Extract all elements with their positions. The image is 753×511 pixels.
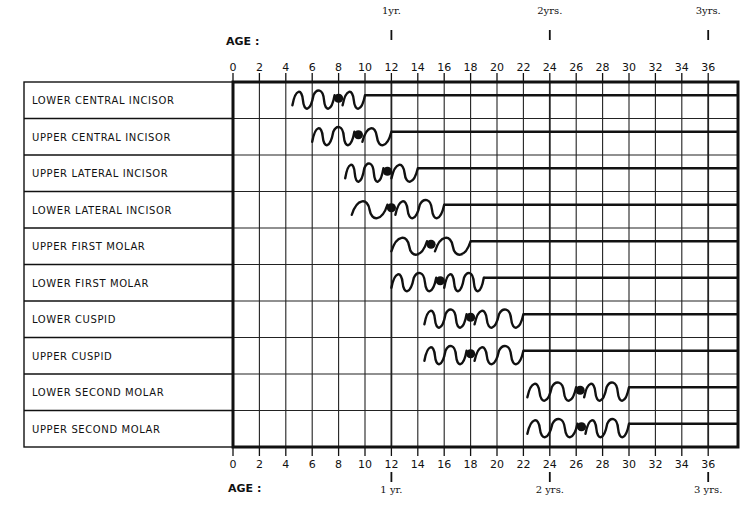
eruption-range-wave — [444, 273, 484, 291]
bottom-tick-label: 4 — [282, 458, 289, 471]
eruption-range-wave — [391, 165, 417, 182]
tooth-eruption-chart: LOWER CENTRAL INCISORUPPER CENTRAL INCIS… — [0, 0, 753, 511]
top-tick-label: 6 — [309, 61, 316, 74]
mean-eruption-dot — [387, 203, 396, 212]
eruption-range-wave — [391, 273, 436, 291]
top-tick-label: 4 — [282, 61, 289, 74]
top-tick-label: 16 — [437, 61, 451, 74]
top-tick-label: 20 — [490, 61, 504, 74]
bottom-tick-label: 28 — [596, 458, 610, 471]
eruption-range-wave — [424, 346, 466, 364]
tooth-label: LOWER FIRST MOLAR — [32, 278, 149, 289]
top-tick-label: 32 — [648, 61, 662, 74]
bottom-tick-label: 10 — [358, 458, 372, 471]
eruption-row — [292, 91, 738, 109]
bottom-tick-label: 12 — [384, 458, 398, 471]
year-label-top: 2yrs. — [537, 5, 562, 16]
eruption-row — [352, 200, 738, 218]
bottom-tick-label: 2 — [256, 458, 263, 471]
mean-eruption-dot — [383, 167, 392, 176]
eruption-row — [391, 273, 738, 291]
eruption-range-wave — [527, 383, 576, 401]
mean-eruption-dot — [466, 313, 475, 322]
eruption-range-wave — [475, 310, 524, 328]
eruption-range-wave — [362, 128, 391, 145]
bottom-tick-label: 34 — [675, 458, 689, 471]
eruption-range-wave — [395, 200, 444, 218]
mean-eruption-dot — [577, 422, 586, 431]
chart-grid — [233, 82, 738, 447]
x-axis-top: AGE : 0246810121416182022242628303234361… — [226, 5, 721, 82]
eruption-range-wave — [584, 383, 629, 401]
bottom-tick-label: 16 — [437, 458, 451, 471]
tooth-label: LOWER CUSPID — [32, 314, 116, 325]
age-label-bottom: AGE : — [228, 482, 261, 495]
bottom-tick-label: 14 — [411, 458, 425, 471]
eruption-range-wave — [343, 92, 365, 109]
top-tick-label: 34 — [675, 61, 689, 74]
eruption-row — [527, 419, 738, 437]
year-label-bottom: 3 yrs. — [694, 484, 722, 495]
eruption-row — [424, 346, 738, 364]
year-label-bottom: 2 yrs. — [536, 484, 564, 495]
eruption-row — [527, 383, 738, 401]
bottom-tick-label: 20 — [490, 458, 504, 471]
eruption-row — [424, 310, 738, 328]
mean-eruption-dot — [334, 94, 343, 103]
eruption-range-wave — [391, 238, 427, 255]
mean-eruption-dot — [466, 349, 475, 358]
bottom-tick-label: 30 — [622, 458, 636, 471]
eruption-row — [391, 238, 738, 255]
mean-eruption-dot — [576, 386, 585, 395]
bottom-tick-label: 22 — [516, 458, 530, 471]
top-tick-label: 30 — [622, 61, 636, 74]
eruption-range-wave — [352, 201, 388, 218]
bottom-tick-label: 0 — [230, 458, 237, 471]
x-axis-bottom: AGE : 0246810121416182022242628303234361… — [228, 447, 722, 495]
eruption-row — [312, 127, 738, 145]
bottom-tick-label: 24 — [543, 458, 557, 471]
tooth-label-table: LOWER CENTRAL INCISORUPPER CENTRAL INCIS… — [24, 82, 233, 447]
eruption-range-wave — [424, 310, 466, 328]
eruption-range-wave — [435, 238, 471, 255]
top-tick-label: 12 — [384, 61, 398, 74]
top-tick-label: 26 — [569, 61, 583, 74]
top-tick-label: 14 — [411, 61, 425, 74]
top-tick-label: 2 — [256, 61, 263, 74]
mean-eruption-dot — [436, 276, 445, 285]
eruption-range-wave — [292, 91, 334, 109]
bottom-tick-label: 26 — [569, 458, 583, 471]
tooth-label: UPPER CUSPID — [32, 351, 112, 362]
top-tick-label: 0 — [230, 61, 237, 74]
top-tick-label: 10 — [358, 61, 372, 74]
eruption-range-wave — [585, 419, 629, 437]
bottom-tick-label: 36 — [701, 458, 715, 471]
top-tick-label: 24 — [543, 61, 557, 74]
tooth-label: LOWER LATERAL INCISOR — [32, 205, 172, 216]
mean-eruption-dot — [426, 240, 435, 249]
top-tick-label: 28 — [596, 61, 610, 74]
tooth-label: LOWER CENTRAL INCISOR — [32, 95, 175, 106]
tooth-label: UPPER CENTRAL INCISOR — [32, 132, 171, 143]
eruption-range-wave — [312, 127, 354, 145]
top-tick-label: 8 — [335, 61, 342, 74]
bottom-tick-label: 8 — [335, 458, 342, 471]
eruption-bars — [292, 91, 738, 438]
tooth-label: UPPER FIRST MOLAR — [32, 241, 145, 252]
top-tick-label: 18 — [464, 61, 478, 74]
eruption-range-wave — [475, 346, 524, 364]
eruption-range-wave — [527, 419, 577, 437]
bottom-tick-label: 18 — [464, 458, 478, 471]
bottom-tick-label: 32 — [648, 458, 662, 471]
tooth-label: UPPER LATERAL INCISOR — [32, 168, 168, 179]
tooth-label: UPPER SECOND MOLAR — [32, 424, 161, 435]
top-tick-label: 22 — [516, 61, 530, 74]
top-tick-label: 36 — [701, 61, 715, 74]
tooth-label: LOWER SECOND MOLAR — [32, 387, 164, 398]
year-label-top: 3yrs. — [696, 5, 721, 16]
eruption-row — [345, 164, 738, 182]
eruption-range-wave — [345, 164, 383, 182]
bottom-tick-label: 6 — [309, 458, 316, 471]
year-label-top: 1yr. — [382, 5, 401, 16]
age-label-top: AGE : — [226, 35, 259, 48]
